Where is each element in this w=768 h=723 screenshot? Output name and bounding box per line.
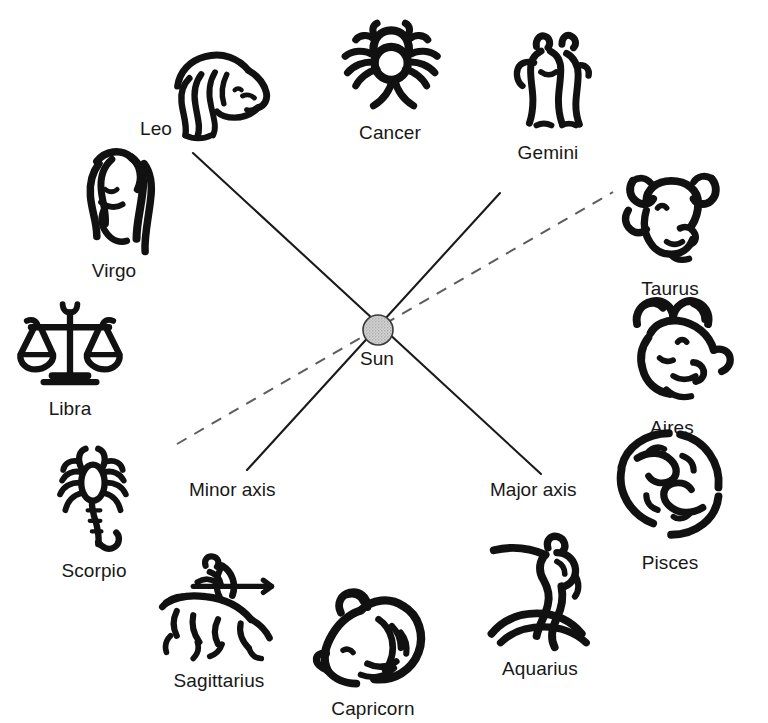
zodiac-sign-label-scorpio: Scorpio bbox=[61, 560, 126, 582]
zodiac-sign-aquarius[interactable]: Aquarius bbox=[478, 528, 602, 680]
zodiac-sign-libra[interactable]: Libra bbox=[12, 288, 128, 420]
zodiac-sign-cancer[interactable]: Cancer bbox=[330, 2, 450, 144]
water-bearer-icon bbox=[478, 528, 602, 656]
zodiac-sign-scorpio[interactable]: Scorpio bbox=[38, 436, 150, 582]
zodiac-sign-label-gemini: Gemini bbox=[518, 142, 579, 164]
bull-icon bbox=[608, 158, 732, 276]
major-axis-line bbox=[193, 153, 541, 474]
sun-label: Sun bbox=[360, 348, 394, 370]
sun-marker bbox=[363, 315, 393, 345]
ecliptic-dashed-line bbox=[177, 192, 613, 444]
archer-icon bbox=[152, 548, 286, 668]
minor-axis-label: Minor axis bbox=[189, 479, 276, 501]
ram-icon bbox=[610, 285, 734, 415]
zodiac-sign-label-sagittarius: Sagittarius bbox=[174, 670, 265, 692]
crab-icon bbox=[330, 2, 450, 120]
zodiac-sign-label-capricorn: Capricorn bbox=[331, 698, 414, 720]
scales-icon bbox=[12, 288, 128, 396]
zodiac-sign-label-pisces: Pisces bbox=[642, 552, 699, 574]
zodiac-sign-label-cancer: Cancer bbox=[359, 122, 421, 144]
zodiac-sign-label-aquarius: Aquarius bbox=[502, 658, 578, 680]
zodiac-sign-label-libra: Libra bbox=[49, 398, 92, 420]
maiden-icon bbox=[60, 140, 168, 258]
zodiac-sign-label-virgo: Virgo bbox=[92, 260, 137, 282]
twins-icon bbox=[490, 18, 606, 140]
zodiac-diagram: Sun Major axis Minor axis Cancer Gemini … bbox=[0, 0, 768, 723]
zodiac-sign-taurus[interactable]: Taurus bbox=[608, 158, 732, 300]
zodiac-sign-gemini[interactable]: Gemini bbox=[490, 18, 606, 164]
scorpion-icon bbox=[38, 436, 150, 558]
zodiac-sign-virgo[interactable]: Virgo bbox=[60, 140, 168, 282]
goat-icon bbox=[312, 578, 434, 696]
zodiac-sign-capricorn[interactable]: Capricorn bbox=[312, 578, 434, 720]
zodiac-sign-pisces[interactable]: Pisces bbox=[608, 418, 732, 574]
major-axis-label: Major axis bbox=[490, 479, 577, 501]
zodiac-sign-sagittarius[interactable]: Sagittarius bbox=[152, 548, 286, 692]
zodiac-sign-aires[interactable]: Aires bbox=[610, 285, 734, 439]
zodiac-sign-leo[interactable]: Leo bbox=[150, 44, 278, 144]
fishes-icon bbox=[608, 418, 732, 550]
zodiac-sign-label-leo: Leo bbox=[140, 118, 172, 140]
